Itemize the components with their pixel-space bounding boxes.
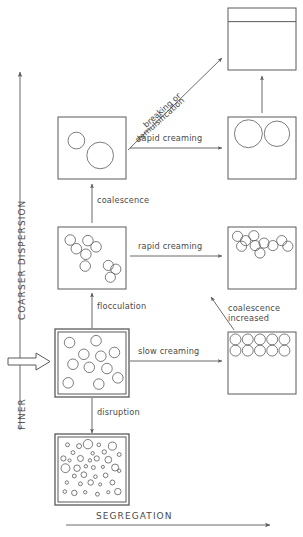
axis-label-finer: FINER bbox=[17, 398, 27, 430]
label-coalescence-increased-line2: increased bbox=[228, 313, 269, 323]
input-block-arrow bbox=[8, 353, 50, 370]
label-disruption: disruption bbox=[97, 408, 140, 417]
diagram-canvas: COARSER DISPERSION FINER SEGREGATION coa… bbox=[0, 0, 303, 537]
diagram-svg bbox=[0, 0, 303, 537]
axis-label-coarser-dispersion: COARSER DISPERSION bbox=[17, 200, 27, 320]
state-flocculated bbox=[58, 227, 126, 289]
state-coalesced-drops bbox=[58, 117, 126, 179]
state-creamed-packed bbox=[228, 332, 296, 394]
label-slow-creaming: slow creaming bbox=[138, 347, 199, 356]
label-coalescence: coalescence bbox=[97, 196, 149, 205]
label-flocculation: flocculation bbox=[97, 302, 146, 311]
state-creamed-coalesced bbox=[228, 117, 296, 179]
axis-label-segregation: SEGREGATION bbox=[96, 511, 173, 521]
label-coalescence-increased-line1: coalescence bbox=[228, 303, 280, 313]
state-separated-phases bbox=[228, 8, 296, 70]
label-rapid-creaming-floc: rapid creaming bbox=[138, 242, 202, 251]
